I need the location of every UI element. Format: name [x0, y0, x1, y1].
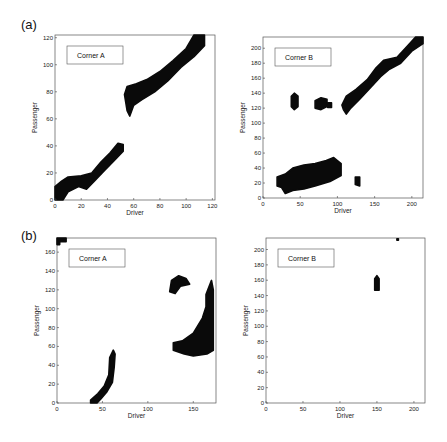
plot-b-cornerA: 050100150020406080100120140160DriverPass…: [33, 238, 216, 419]
x-tick-label: 0: [55, 406, 59, 412]
x-axis-label: Driver: [337, 412, 355, 419]
x-tick-label: 0: [261, 201, 265, 207]
x-tick-label: 80: [157, 203, 164, 209]
y-tick-label: 80: [254, 135, 261, 141]
y-tick-label: 120: [251, 105, 262, 111]
y-tick-label: 80: [46, 89, 53, 95]
y-tick-label: 200: [251, 45, 262, 51]
x-tick-label: 200: [409, 406, 420, 412]
y-tick-label: 40: [254, 165, 261, 171]
y-tick-label: 20: [254, 180, 261, 186]
plot-b-cornerB: 050100150200020406080100120140160180200D…: [242, 238, 425, 419]
x-tick-label: 20: [78, 203, 85, 209]
legend-box: Corner B: [278, 249, 334, 267]
x-tick-label: 150: [370, 201, 381, 207]
y-tick-label: 100: [43, 62, 54, 68]
y-tick-label: 140: [251, 90, 262, 96]
legend-label: Corner B: [288, 255, 316, 262]
y-tick-label: 180: [251, 60, 262, 66]
x-tick-label: 50: [99, 406, 106, 412]
y-tick-label: 40: [257, 369, 264, 375]
y-tick-label: 140: [254, 293, 265, 299]
y-tick-label: 20: [257, 385, 264, 391]
y-tick-label: 60: [254, 150, 261, 156]
y-tick-label: 40: [46, 143, 53, 149]
y-tick-label: 80: [257, 339, 264, 345]
x-tick-label: 150: [188, 406, 199, 412]
legend-box: Corner A: [67, 46, 123, 64]
y-tick-label: 100: [251, 120, 262, 126]
y-tick-label: 60: [48, 343, 55, 349]
plot-a-cornerA: 020406080100120020406080100120DriverPass…: [31, 35, 218, 216]
y-tick-label: 120: [43, 35, 54, 41]
y-tick-label: 160: [251, 75, 262, 81]
legend-label: Corner B: [285, 54, 313, 61]
y-tick-label: 60: [257, 354, 264, 360]
y-tick-label: 180: [254, 262, 265, 268]
y-tick-label: 160: [254, 277, 265, 283]
x-tick-label: 50: [300, 406, 307, 412]
y-tick-label: 100: [45, 306, 56, 312]
data-region: [328, 103, 332, 108]
y-tick-label: 60: [46, 116, 53, 122]
plot-a-cornerB: 050100150200020406080100120140160180200D…: [239, 37, 423, 214]
y-tick-label: 20: [48, 381, 55, 387]
y-tick-label: 100: [254, 323, 265, 329]
y-tick-label: 120: [254, 308, 265, 314]
x-tick-label: 100: [181, 203, 192, 209]
y-tick-label: 80: [48, 325, 55, 331]
legend-box: Corner A: [69, 249, 125, 267]
y-axis-label: Passenger: [31, 101, 39, 133]
legend-box: Corner B: [275, 48, 331, 66]
figure-canvas: 020406080100120020406080100120DriverPass…: [0, 0, 447, 442]
y-tick-label: 20: [46, 170, 53, 176]
legend-label: Corner A: [77, 52, 105, 59]
x-tick-label: 0: [53, 203, 57, 209]
data-region: [291, 93, 298, 109]
y-tick-label: 40: [48, 362, 55, 368]
x-axis-label: Driver: [126, 209, 144, 216]
x-tick-label: 40: [104, 203, 111, 209]
x-axis-label: Driver: [334, 207, 352, 214]
y-axis-label: Passenger: [239, 101, 247, 133]
x-tick-label: 200: [407, 201, 418, 207]
x-tick-label: 150: [372, 406, 383, 412]
y-axis-label: Passenger: [242, 304, 250, 336]
x-tick-label: 50: [297, 201, 304, 207]
y-tick-label: 160: [45, 249, 56, 255]
legend-label: Corner A: [79, 255, 107, 262]
y-tick-label: 120: [45, 287, 56, 293]
x-axis-label: Driver: [128, 412, 146, 419]
x-tick-label: 120: [207, 203, 218, 209]
x-tick-label: 0: [264, 406, 268, 412]
y-axis-label: Passenger: [33, 304, 41, 336]
y-tick-label: 200: [254, 247, 265, 253]
data-region: [397, 239, 399, 241]
y-tick-label: 140: [45, 268, 56, 274]
data-region: [375, 276, 379, 291]
data-region: [315, 98, 327, 110]
data-region: [355, 177, 359, 186]
